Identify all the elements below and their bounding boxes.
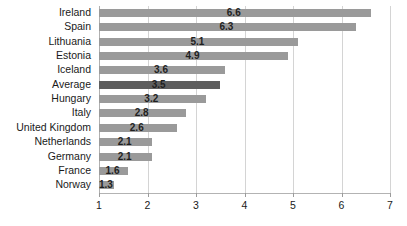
- bar-value-label: 3.6: [154, 63, 168, 77]
- category-label: Italy: [0, 107, 91, 118]
- category-label: Germany: [0, 151, 91, 162]
- bar-row: 5.1: [99, 35, 390, 49]
- axis-tick-mark: [148, 193, 149, 197]
- bar-value-label: 5.1: [190, 35, 204, 49]
- category-label: Ireland: [0, 7, 91, 18]
- category-label: Average: [0, 79, 91, 90]
- bar-value-label: 2.6: [130, 121, 144, 135]
- category-label: Netherlands: [0, 136, 91, 147]
- bar-value-label: 6.3: [220, 20, 234, 34]
- category-axis: IrelandSpainLithuaniaEstoniaIcelandAvera…: [0, 6, 95, 193]
- bar-value-label: 4.9: [186, 49, 200, 63]
- bar-value-label: 1.6: [106, 164, 120, 178]
- value-axis: 1234567: [99, 193, 391, 221]
- axis-tick-mark: [196, 193, 197, 197]
- axis-tick-mark: [99, 193, 100, 197]
- axis-tick-label: 3: [193, 199, 199, 211]
- category-label: Hungary: [0, 93, 91, 104]
- category-label: Iceland: [0, 64, 91, 75]
- bar-row: 1.3: [99, 178, 390, 192]
- bar-row: 2.1: [99, 150, 390, 164]
- bar-row: 3.6: [99, 63, 390, 77]
- axis-tick-label: 6: [339, 199, 345, 211]
- bar-row: 1.6: [99, 164, 390, 178]
- bar-row: 3.5: [99, 78, 390, 92]
- bar-value-label: 2.1: [118, 150, 132, 164]
- axis-tick-mark: [342, 193, 343, 197]
- axis-tick-label: 2: [145, 199, 151, 211]
- bar-row: 4.9: [99, 49, 390, 63]
- axis-tick-label: 1: [96, 199, 102, 211]
- bar-row: 6.6: [99, 6, 390, 20]
- axis-tick-mark: [390, 193, 391, 197]
- bar-value-label: 2.1: [118, 135, 132, 149]
- category-label: United Kingdom: [0, 122, 91, 133]
- axis-tick-label: 7: [387, 199, 393, 211]
- category-label: Spain: [0, 21, 91, 32]
- bar-value-label: 2.8: [135, 106, 149, 120]
- bar-value-label: 3.5: [152, 78, 166, 92]
- bar-row: 2.8: [99, 106, 390, 120]
- plot-area: 6.66.35.14.93.63.53.22.82.62.12.11.61.3: [99, 6, 391, 194]
- axis-tick-mark: [245, 193, 246, 197]
- category-label: Norway: [0, 179, 91, 190]
- bar-row: 2.6: [99, 121, 390, 135]
- axis-tick-label: 5: [290, 199, 296, 211]
- bar-chart: IrelandSpainLithuaniaEstoniaIcelandAvera…: [0, 0, 407, 226]
- bar-row: 3.2: [99, 92, 390, 106]
- bar-value-label: 6.6: [227, 6, 241, 20]
- bar-row: 6.3: [99, 20, 390, 34]
- gridline: [390, 6, 391, 193]
- bar-value-label: 1.3: [99, 178, 113, 192]
- bar-value-label: 3.2: [144, 92, 158, 106]
- category-label: Estonia: [0, 50, 91, 61]
- category-label: Lithuania: [0, 36, 91, 47]
- category-label: France: [0, 165, 91, 176]
- axis-tick-label: 4: [242, 199, 248, 211]
- axis-tick-mark: [293, 193, 294, 197]
- bar-row: 2.1: [99, 135, 390, 149]
